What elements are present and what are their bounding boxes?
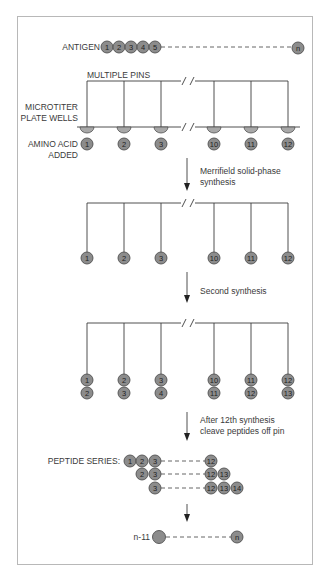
antigen-row: ANTIGEN 1 2 3 4 5 n bbox=[62, 41, 304, 54]
well bbox=[244, 127, 258, 133]
wells-label-line2: PLATE WELLS bbox=[21, 113, 79, 123]
svg-text:12: 12 bbox=[207, 484, 215, 493]
peptide-synthesis-diagram: ANTIGEN 1 2 3 4 5 n MULTIPLE PINS MICROT… bbox=[0, 0, 327, 577]
svg-text:3: 3 bbox=[153, 470, 157, 479]
svg-text:11: 11 bbox=[247, 254, 255, 263]
pin-tip-residue: 10 bbox=[208, 252, 220, 264]
svg-text:11: 11 bbox=[247, 140, 255, 149]
arrow-down-icon bbox=[184, 295, 190, 303]
step2-caption: Second synthesis bbox=[200, 286, 267, 296]
final-start-label: n-11 bbox=[134, 532, 151, 542]
amino-acid: 1 bbox=[81, 138, 93, 150]
well bbox=[154, 127, 168, 133]
svg-text:13: 13 bbox=[220, 484, 228, 493]
pin-tip-residue: 13 bbox=[282, 387, 294, 399]
svg-text:12: 12 bbox=[284, 140, 292, 149]
peptide-row: 2 3 12 13 bbox=[136, 468, 230, 480]
svg-text:2: 2 bbox=[85, 389, 89, 398]
peptide-row: 1 2 3 12 bbox=[124, 455, 217, 467]
svg-text:13: 13 bbox=[220, 470, 228, 479]
svg-text:11: 11 bbox=[210, 389, 218, 398]
pin-tip-residue: 3 bbox=[155, 374, 167, 386]
well bbox=[80, 127, 94, 133]
antigen-terminal-residue: n bbox=[292, 42, 304, 54]
antigen-residue: 4 bbox=[137, 41, 149, 53]
pin-tip-residue: 4 bbox=[155, 387, 167, 399]
svg-text:2: 2 bbox=[122, 254, 126, 263]
pin-tip-residue: 1 bbox=[81, 374, 93, 386]
step3-caption-line1: After 12th synthesis bbox=[200, 415, 275, 425]
well bbox=[117, 127, 131, 133]
svg-text:12: 12 bbox=[207, 470, 215, 479]
amino-acid: 3 bbox=[155, 138, 167, 150]
final-peptide: n-11 n bbox=[134, 531, 243, 544]
pins bbox=[87, 81, 288, 128]
antigen-residue: 3 bbox=[125, 41, 137, 53]
arrow-final bbox=[184, 504, 190, 522]
pin-tip-residue: 12 bbox=[282, 252, 294, 264]
amino-acid: 12 bbox=[282, 138, 294, 150]
svg-text:11: 11 bbox=[247, 376, 255, 385]
amino-label-line1: AMINO ACID bbox=[28, 139, 78, 149]
multiple-pins-label: MULTIPLE PINS bbox=[87, 70, 150, 80]
break-mark bbox=[182, 319, 194, 327]
amino-acid: 11 bbox=[245, 138, 257, 150]
svg-text:12: 12 bbox=[247, 389, 255, 398]
svg-text:3: 3 bbox=[122, 389, 126, 398]
pin-tip-residue: 2 bbox=[81, 387, 93, 399]
well bbox=[281, 127, 295, 133]
antigen-residue: 2 bbox=[113, 41, 125, 53]
svg-text:3: 3 bbox=[129, 43, 133, 52]
antigen-label: ANTIGEN bbox=[62, 42, 100, 52]
svg-text:1: 1 bbox=[85, 376, 89, 385]
svg-text:1: 1 bbox=[128, 457, 132, 466]
break-mark bbox=[182, 77, 194, 85]
svg-text:2: 2 bbox=[122, 140, 126, 149]
svg-text:3: 3 bbox=[153, 484, 157, 493]
step1-pins: 1 2 3 10 11 12 bbox=[81, 199, 294, 264]
pin-tip-residue: 2 bbox=[118, 252, 130, 264]
final-end-residue: n bbox=[231, 531, 243, 543]
step1-caption-line1: Merrifield solid-phase bbox=[200, 166, 281, 176]
svg-text:2: 2 bbox=[140, 457, 144, 466]
arrow-step3: After 12th synthesis cleave peptides off… bbox=[184, 412, 285, 441]
break-mark bbox=[182, 199, 194, 207]
arrow-down-icon bbox=[184, 183, 190, 191]
svg-text:14: 14 bbox=[233, 484, 241, 493]
svg-text:10: 10 bbox=[210, 140, 218, 149]
svg-text:1: 1 bbox=[85, 254, 89, 263]
svg-text:4: 4 bbox=[141, 43, 145, 52]
svg-text:3: 3 bbox=[159, 254, 163, 263]
pin-tip-residue: 3 bbox=[155, 252, 167, 264]
svg-text:n: n bbox=[296, 44, 300, 53]
arrow-down-icon bbox=[184, 514, 190, 522]
well bbox=[207, 127, 221, 133]
pin-tip-residue: 10 bbox=[208, 374, 220, 386]
antigen-residue: 5 bbox=[149, 41, 161, 53]
svg-text:10: 10 bbox=[210, 254, 218, 263]
pin-tip-residue: 2 bbox=[118, 374, 130, 386]
pin-tip-residue: 12 bbox=[245, 387, 257, 399]
peptide-series-label: PEPTIDE SERIES: bbox=[48, 456, 120, 466]
svg-text:12: 12 bbox=[284, 254, 292, 263]
svg-text:3: 3 bbox=[153, 457, 157, 466]
pins-and-wells: MULTIPLE PINS MICROTITER PLATE WELLS AMI… bbox=[21, 70, 300, 160]
step3-caption-line2: cleave peptides off pin bbox=[200, 426, 285, 436]
plate-break-mark bbox=[182, 123, 194, 131]
peptide-series: PEPTIDE SERIES: 1 2 3 12 2 3 12 13 3 12 … bbox=[48, 455, 243, 494]
svg-text:3: 3 bbox=[159, 140, 163, 149]
antigen-residue: 1 bbox=[101, 41, 113, 53]
pin-tip-residue: 12 bbox=[282, 374, 294, 386]
svg-text:1: 1 bbox=[85, 140, 89, 149]
svg-text:12: 12 bbox=[284, 376, 292, 385]
pin-tip-residue: 11 bbox=[208, 387, 220, 399]
pin-tip-residue: 1 bbox=[81, 252, 93, 264]
amino-acid: 10 bbox=[208, 138, 220, 150]
amino-acid: 2 bbox=[118, 138, 130, 150]
svg-text:5: 5 bbox=[153, 43, 157, 52]
svg-text:13: 13 bbox=[284, 389, 292, 398]
arrow-down-icon bbox=[184, 433, 190, 441]
final-start-residue bbox=[153, 531, 166, 544]
step2-pins: 1 2 3 10 11 12 2 3 4 11 12 13 bbox=[81, 319, 294, 399]
svg-text:4: 4 bbox=[159, 389, 163, 398]
